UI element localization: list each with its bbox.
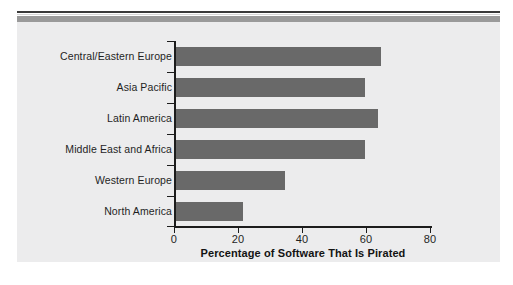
top-rule-dark xyxy=(17,11,500,13)
chart-panel xyxy=(17,22,500,262)
figure-container: Central/Eastern Europe Asia Pacific Lati… xyxy=(0,0,513,285)
top-rule-thin xyxy=(17,14,500,15)
